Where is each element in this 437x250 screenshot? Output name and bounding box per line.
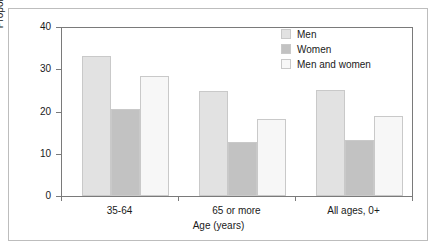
x-tick-2 (295, 196, 296, 201)
legend-item-men-and-women: Men and women (281, 57, 371, 71)
y-tick-label-0: 0 (0, 191, 51, 201)
legend-label-men-and-women: Men and women (297, 59, 371, 70)
legend-swatch-women (281, 44, 291, 54)
y-tick-label-10: 10 (0, 149, 51, 159)
bar-men-and-women-65-or-more (257, 119, 286, 196)
x-tick-label-65-or-more: 65 or more (178, 205, 295, 216)
legend-label-men: Men (297, 29, 316, 40)
x-tick-end (412, 196, 413, 201)
plot-right-spine (412, 27, 413, 197)
legend-swatch-men (281, 29, 291, 39)
chart-figure: 0 10 20 30 40 Proportion (%) 35-64 65 or… (0, 0, 437, 250)
x-axis-label: Age (years) (0, 220, 437, 231)
legend-item-men: Men (281, 27, 371, 41)
bar-men-and-women-all-ages (374, 116, 403, 196)
y-tick-label-40: 40 (0, 22, 51, 32)
y-tick-label-20: 20 (0, 107, 51, 117)
x-tick-1 (178, 196, 179, 201)
x-tick-label-35-64: 35-64 (61, 205, 178, 216)
y-axis-label: Proportion (%) (0, 0, 5, 56)
x-tick-label-all-ages: All ages, 0+ (295, 205, 412, 216)
bar-women-all-ages (345, 140, 374, 196)
bar-men-65-or-more (199, 91, 228, 196)
x-axis-line (61, 196, 413, 197)
bar-women-65-or-more (228, 142, 257, 196)
x-tick-start (61, 196, 62, 201)
legend-item-women: Women (281, 42, 371, 56)
chart-legend: Men Women Men and women (281, 27, 371, 72)
bar-men-all-ages (316, 90, 345, 196)
y-tick-label-30: 30 (0, 64, 51, 74)
bar-men-35-64 (82, 56, 111, 196)
bar-men-and-women-35-64 (140, 76, 169, 196)
bar-women-35-64 (111, 109, 140, 196)
legend-swatch-men-and-women (281, 59, 291, 69)
legend-label-women: Women (297, 44, 331, 55)
